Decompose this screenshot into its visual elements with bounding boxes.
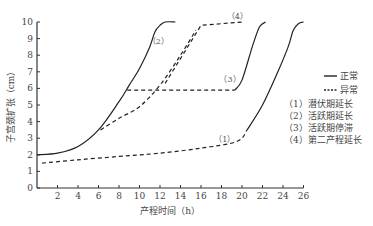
- legend-normal: 正常: [340, 70, 358, 81]
- y-axis-title: 子宫颈扩张（cm）: [5, 67, 16, 144]
- x-tick-label: 22: [257, 191, 268, 201]
- x-tick-label: 26: [298, 191, 310, 201]
- x-tick-label: 12: [154, 191, 165, 201]
- y-tick-label: 4: [27, 117, 33, 127]
- x-tick-label: 6: [96, 191, 102, 201]
- curve-annotation: （2）: [148, 37, 169, 46]
- x-tick-label: 4: [75, 191, 81, 201]
- y-tick-label: 6: [27, 83, 33, 93]
- x-tick-label: 10: [134, 191, 146, 201]
- y-tick-label: 10: [22, 17, 34, 27]
- axes: 0123456789102468101214161820222426产程时间（h…: [5, 17, 309, 216]
- legend-annotation: （4）第二产程延长: [284, 134, 362, 145]
- y-tick-label: 5: [27, 100, 33, 110]
- legend-annotation: （3）活跃期停滞: [284, 122, 353, 133]
- x-axis-title: 产程时间（h）: [140, 205, 200, 216]
- legend-annotation: （2）活跃期延长: [284, 110, 353, 121]
- y-tick-label: 2: [27, 150, 33, 160]
- x-tick-label: 2: [55, 191, 61, 201]
- curve-annotation: （3）: [219, 75, 240, 84]
- x-tick-label: 24: [277, 191, 289, 201]
- curve-annotation: （4）: [227, 12, 248, 21]
- curves: [37, 22, 304, 163]
- legend: 正常异常（1）潜伏期延长（2）活跃期延长（3）活跃期停滞（4）第二产程延长: [284, 70, 362, 145]
- y-tick-label: 9: [27, 34, 33, 44]
- legend-annotation: （1）潜伏期延长: [284, 98, 353, 109]
- x-tick-label: 8: [116, 191, 122, 201]
- x-tick-label: 18: [216, 191, 228, 201]
- partograph-chart: 0123456789102468101214161820222426产程时间（h…: [0, 0, 373, 226]
- y-tick-label: 1: [27, 166, 33, 176]
- y-tick-label: 8: [27, 50, 33, 60]
- y-tick-label: 0: [27, 183, 33, 193]
- curve-labels: （1）（2）（3）（4）: [148, 12, 248, 144]
- legend-abnormal: 异常: [340, 84, 358, 95]
- x-tick-label: 16: [195, 191, 207, 201]
- x-tick-label: 20: [236, 191, 248, 201]
- curve-annotation: （1）: [214, 135, 235, 144]
- y-tick-label: 3: [27, 133, 33, 143]
- x-tick-label: 14: [175, 191, 187, 201]
- y-tick-label: 7: [27, 67, 33, 77]
